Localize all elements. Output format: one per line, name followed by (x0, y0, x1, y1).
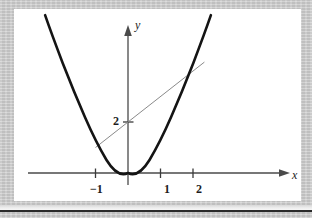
figure-screenshot: x y −1 1 2 2 (0, 0, 312, 218)
graph-panel: x y −1 1 2 2 (14, 9, 301, 201)
y-axis-label: y (135, 19, 140, 31)
graph-plot (14, 9, 301, 201)
x-axis-label: x (292, 169, 297, 181)
y-tick-label-2: 2 (113, 115, 119, 127)
y-axis (124, 25, 132, 185)
x-axis (28, 169, 290, 177)
bottom-rule (0, 210, 312, 212)
x-tick-label-minus-1: −1 (90, 183, 103, 195)
x-tick-label-2: 2 (196, 183, 202, 195)
x-tick-label-1: 1 (164, 183, 170, 195)
